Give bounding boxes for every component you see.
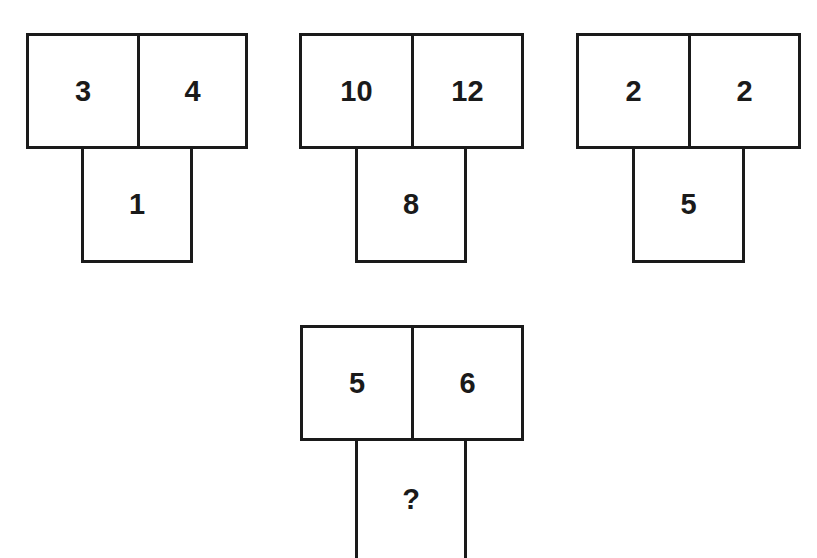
cell-value: 5: [349, 367, 365, 400]
figure-4-bottom-cell-unknown: ?: [355, 438, 467, 558]
cell-value: 5: [680, 188, 696, 221]
figure-1-bottom-cell: 1: [81, 146, 193, 263]
cell-value: 2: [736, 75, 752, 108]
figure-2-top-left-cell: 10: [299, 33, 414, 149]
figure-1-top-right-cell: 4: [137, 33, 248, 149]
figure-2-top-right-cell: 12: [411, 33, 524, 149]
cell-value: 3: [75, 75, 91, 108]
figure-3-top-left-cell: 2: [576, 33, 691, 149]
cell-value: 4: [184, 75, 200, 108]
figure-2-bottom-cell: 8: [355, 146, 467, 263]
cell-value: 10: [340, 75, 372, 108]
cell-value: 6: [459, 367, 475, 400]
figure-1-top-left-cell: 3: [26, 33, 140, 149]
cell-value: 2: [625, 75, 641, 108]
figure-4-top-left-cell: 5: [300, 325, 414, 441]
figure-4-top-right-cell: 6: [411, 325, 524, 441]
cell-value: 12: [451, 75, 483, 108]
cell-value: 1: [129, 188, 145, 221]
question-mark: ?: [402, 483, 420, 516]
cell-value: 8: [403, 188, 419, 221]
figure-3-top-right-cell: 2: [688, 33, 801, 149]
figure-3-bottom-cell: 5: [632, 146, 745, 263]
